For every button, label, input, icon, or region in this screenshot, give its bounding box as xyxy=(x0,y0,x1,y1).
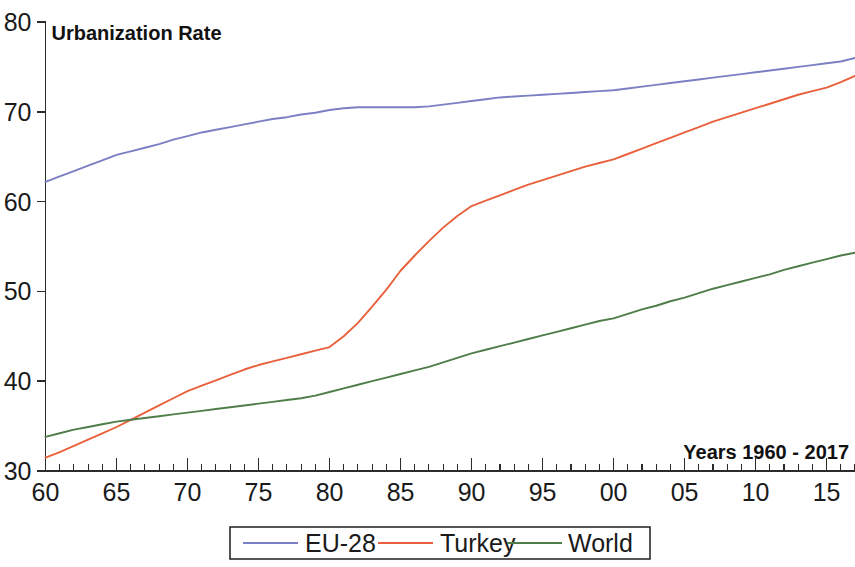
x-axis-tick-label: 10 xyxy=(742,478,770,506)
legend-label-eu-28: EU-28 xyxy=(305,529,376,557)
x-axis-tick-label: 80 xyxy=(316,478,344,506)
urbanization-rate-chart: 304050607080 606570758085909500051015 Ur… xyxy=(0,0,855,567)
y-axis-tick-label: 30 xyxy=(4,457,32,485)
series-line-world xyxy=(46,253,855,437)
y-axis-ticks xyxy=(37,22,46,471)
legend-label-turkey: Turkey xyxy=(440,529,516,557)
chart-legend: EU-28TurkeyWorld xyxy=(230,527,650,559)
x-axis-tick-labels: 606570758085909500051015 xyxy=(32,478,841,506)
y-axis-tick-label: 60 xyxy=(4,188,32,216)
x-axis-tick-label: 65 xyxy=(103,478,131,506)
x-axis-tick-label: 60 xyxy=(32,478,60,506)
y-axis-tick-label: 50 xyxy=(4,277,32,305)
y-axis-tick-label: 70 xyxy=(4,98,32,126)
x-axis-tick-label: 75 xyxy=(245,478,273,506)
y-axis-tick-label: 80 xyxy=(4,8,32,36)
x-axis-tick-label: 85 xyxy=(387,478,415,506)
chart-canvas: 304050607080 606570758085909500051015 Ur… xyxy=(0,0,855,567)
x-axis-tick-label: 00 xyxy=(600,478,628,506)
legend-label-world: World xyxy=(568,529,633,557)
series-line-eu-28 xyxy=(46,58,855,182)
data-series-group xyxy=(46,58,855,458)
x-axis-tick-label: 15 xyxy=(813,478,841,506)
years-range-annotation: Years 1960 - 2017 xyxy=(683,441,849,463)
plot-title: Urbanization Rate xyxy=(52,22,222,44)
y-axis-tick-labels: 304050607080 xyxy=(4,8,32,485)
x-axis-tick-label: 05 xyxy=(671,478,699,506)
y-axis-tick-label: 40 xyxy=(4,367,32,395)
x-axis-tick-label: 95 xyxy=(529,478,557,506)
x-axis-minor-ticks xyxy=(46,464,855,471)
series-line-turkey xyxy=(46,76,855,458)
x-axis-tick-label: 70 xyxy=(174,478,202,506)
x-axis-tick-label: 90 xyxy=(458,478,486,506)
